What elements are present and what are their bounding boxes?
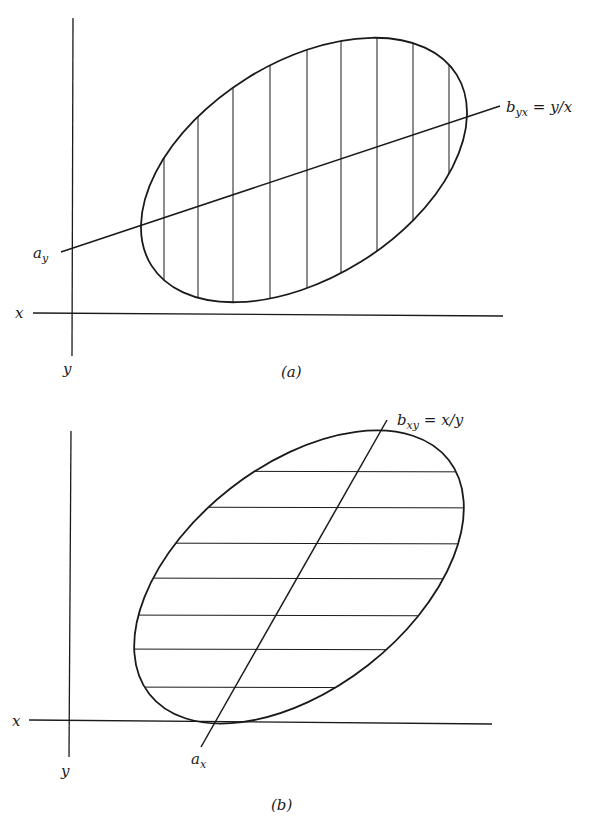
scatter-ellipse-a bbox=[94, 0, 514, 357]
regression-diagram: byx = y/x ay x y (a) bxy = x/y ax x y (b… bbox=[0, 0, 602, 830]
panel-b: bxy = x/y ax x y (b) bbox=[12, 372, 520, 814]
intercept-label-ay: ay bbox=[33, 244, 49, 265]
x-axis-label-b: x bbox=[12, 712, 21, 730]
y-axis-label-a: y bbox=[62, 360, 72, 378]
x-axis-b bbox=[29, 720, 492, 724]
y-axis-b bbox=[69, 431, 71, 757]
regression-label-b: bxy = x/y bbox=[397, 411, 464, 432]
regression-label-a: byx = y/x bbox=[506, 98, 573, 119]
horizontal-hatching-b bbox=[100, 471, 520, 688]
x-axis-a bbox=[33, 313, 503, 316]
y-axis-a bbox=[72, 18, 73, 356]
y-axis-label-b: y bbox=[60, 762, 70, 780]
caption-a: (a) bbox=[281, 363, 302, 381]
x-axis-label-a: x bbox=[15, 304, 24, 322]
intercept-label-ax: ax bbox=[191, 750, 207, 771]
regression-line-yx bbox=[61, 106, 500, 252]
caption-b: (b) bbox=[271, 796, 292, 814]
vertical-hatching-a bbox=[164, 0, 449, 400]
panel-a: byx = y/x ay x y (a) bbox=[15, 0, 573, 400]
regression-line-xy bbox=[201, 420, 387, 747]
